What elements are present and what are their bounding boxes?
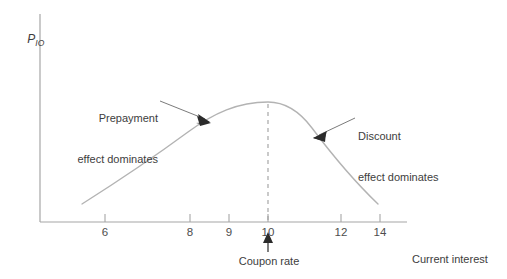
annotation-discount: Discount effect dominates bbox=[358, 103, 498, 211]
x-tick-label-6: 6 bbox=[92, 226, 118, 239]
coupon-rate-label: Coupon rate bbox=[229, 255, 309, 269]
x-tick-label-12: 12 bbox=[328, 226, 354, 239]
x-tick-label-14: 14 bbox=[367, 226, 393, 239]
annotation-prepayment-line2: effect dominates bbox=[28, 153, 158, 167]
prepayment-annotation-arrow bbox=[160, 101, 211, 126]
x-axis-title: Current interest rate (y) (percent) bbox=[412, 224, 507, 279]
x-tick-label-8: 8 bbox=[177, 226, 203, 239]
y-axis-label-subscript: IO bbox=[35, 38, 44, 48]
x-axis-title-line1: Current interest bbox=[412, 252, 507, 266]
discount-annotation-arrow bbox=[313, 118, 355, 142]
x-tick-label-9: 9 bbox=[216, 226, 242, 239]
chart-figure: PIO 6 8 9 10 12 14 Current interest rate… bbox=[0, 0, 507, 279]
y-axis-label: PIO bbox=[14, 20, 44, 63]
annotation-discount-line1: Discount bbox=[358, 130, 498, 144]
x-axis-ticks bbox=[105, 214, 380, 222]
annotation-prepayment: Prepayment effect dominates bbox=[28, 85, 158, 193]
annotation-prepayment-line1: Prepayment bbox=[28, 112, 158, 126]
annotation-discount-line2: effect dominates bbox=[358, 171, 498, 185]
x-tick-label-10: 10 bbox=[255, 226, 281, 239]
